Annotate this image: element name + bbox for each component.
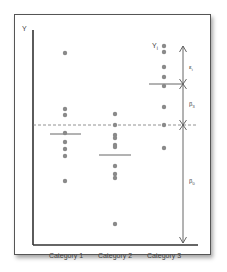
data-point — [63, 107, 67, 111]
category-3-label: Category 3 — [147, 252, 181, 260]
data-point — [113, 164, 117, 168]
data-point — [63, 147, 67, 151]
data-point — [162, 146, 166, 150]
data-point — [63, 140, 67, 144]
y-axis-label: Y — [22, 25, 27, 32]
beta0-label: β0 — [189, 178, 195, 186]
data-point — [162, 123, 166, 127]
category-2-label: Category 2 — [98, 252, 132, 260]
data-point — [113, 136, 117, 140]
data-point — [162, 65, 166, 69]
epsilon-label: εi — [189, 64, 193, 72]
data-point — [63, 154, 67, 158]
data-point — [162, 75, 166, 79]
data-point — [113, 176, 117, 180]
data-point — [63, 113, 67, 117]
data-point — [113, 172, 117, 176]
data-point — [113, 123, 117, 127]
yi-label: Yi — [152, 42, 158, 51]
regression-diagram: Y Yi εi β3 β0 Category 1 Category 2 Cate… — [0, 0, 227, 272]
data-point — [63, 179, 67, 183]
data-point — [113, 222, 117, 226]
data-point — [63, 131, 67, 135]
data-point — [113, 112, 117, 116]
data-point — [162, 50, 166, 54]
data-point — [113, 145, 117, 149]
data-points — [63, 44, 166, 226]
category-1-label: Category 1 — [49, 252, 83, 260]
beta3-label: β3 — [189, 101, 195, 109]
data-point — [162, 44, 166, 48]
data-point — [162, 84, 166, 88]
data-point — [63, 51, 67, 55]
data-point — [162, 105, 166, 109]
